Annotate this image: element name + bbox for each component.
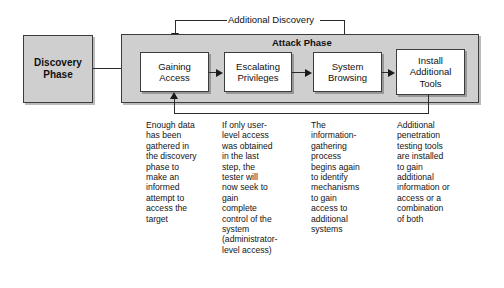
discovery-phase-label: Discovery Phase: [34, 57, 82, 81]
discovery-phase-box[interactable]: Discovery Phase: [23, 35, 93, 103]
note-escalating-privileges: If only user- level access was obtained …: [222, 120, 292, 255]
arrow-up-icon-gaining-access: [170, 92, 178, 99]
additional-discovery-line-left: [175, 20, 227, 21]
step-label-gaining-access: Gaining Access: [158, 61, 191, 84]
step-box-system-browsing[interactable]: System Browsing: [313, 52, 382, 92]
step-box-escalating-privileges[interactable]: Escalating Privileges: [224, 52, 292, 92]
diagram-canvas: Additional Discovery Discovery Phase Att…: [0, 0, 504, 288]
additional-discovery-label: Additional Discovery: [228, 14, 314, 25]
step-label-escalating-privileges: Escalating Privileges: [236, 61, 280, 84]
step-label-install-additional-tools: Install Additional Tools: [410, 55, 452, 90]
additional-discovery-drop-left: [175, 20, 176, 34]
step-label-system-browsing: System Browsing: [328, 61, 367, 84]
note-system-browsing: The information- gathering process begin…: [311, 120, 381, 234]
attack-phase-label: Attack Phase: [272, 37, 332, 48]
arrow-right-icon-2: [305, 69, 312, 77]
step-box-install-additional-tools[interactable]: Install Additional Tools: [396, 49, 465, 95]
additional-discovery-line-right: [320, 20, 345, 21]
note-gaining-access: Enough data has been gathered in the dis…: [146, 120, 212, 224]
arrow-right-icon-1: [216, 69, 223, 77]
step-box-gaining-access[interactable]: Gaining Access: [140, 52, 209, 92]
connector-escalating-to-browsing: [292, 72, 306, 73]
loopback-horizontal: [174, 113, 429, 114]
note-install-additional-tools: Additional penetration testing tools are…: [397, 120, 472, 224]
loopback-drop-from-install: [428, 95, 429, 113]
loopback-rise-to-gaining: [174, 99, 175, 113]
arrow-right-icon-3: [388, 69, 395, 77]
